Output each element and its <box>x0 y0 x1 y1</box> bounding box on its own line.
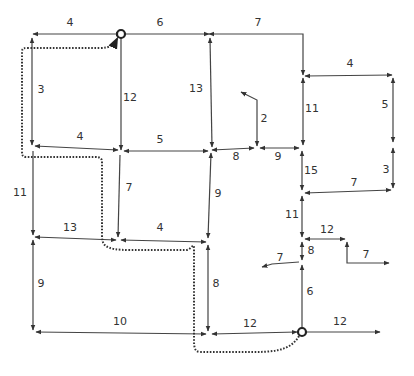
edge-e32 <box>212 332 297 334</box>
edge-weight-label: 12 <box>333 315 347 328</box>
edge-weight-label: 6 <box>307 285 314 298</box>
edge-weight-label: 9 <box>38 277 45 290</box>
edge-e11 <box>241 92 257 146</box>
edge-weight-label: 12 <box>243 317 257 330</box>
edge-weight-label: 4 <box>157 221 164 234</box>
edge-weight-label: 9 <box>275 150 282 163</box>
edge-weight-label: 7 <box>126 181 133 194</box>
edge-weight-label: 7 <box>363 248 370 261</box>
edge-weight-label: 4 <box>347 57 354 70</box>
edge-weight-label: 9 <box>215 187 222 200</box>
edge-weight-label: 10 <box>113 315 127 328</box>
edge-weight-label: 7 <box>277 251 284 264</box>
edge-e22 <box>35 237 116 240</box>
edge-weight-label: 5 <box>382 98 389 111</box>
edge-weight-label: 13 <box>189 82 203 95</box>
edge-weight-label: 11 <box>305 102 319 115</box>
edge-e19 <box>118 155 120 237</box>
edge-weight-label: 12 <box>123 91 137 104</box>
edge-weight-label: 7 <box>351 176 358 189</box>
edge-weight-label: 7 <box>255 16 262 29</box>
edge-e23 <box>121 240 206 242</box>
edge-weight-label: 8 <box>233 150 240 163</box>
edge-e31 <box>36 332 206 334</box>
edge-weight-label: 8 <box>213 277 220 290</box>
edge-weight-label: 2 <box>261 112 268 125</box>
edge-weight-label: 5 <box>157 133 164 146</box>
edge-weight-label: 11 <box>13 186 27 199</box>
edge-e17 <box>305 190 391 193</box>
edge-weight-label: 3 <box>38 83 45 96</box>
edge-weight-labels: 4673121345892114531571179111341278769810… <box>13 16 390 330</box>
edge-weight-label: 6 <box>157 16 164 29</box>
edge-e13 <box>305 75 392 76</box>
edge-e7 <box>35 146 118 150</box>
edge-e20 <box>208 153 211 238</box>
edge-weight-label: 11 <box>285 208 299 221</box>
edge-weight-label: 12 <box>320 223 334 236</box>
edge-e6 <box>210 38 212 147</box>
end-node-circle <box>298 328 306 336</box>
highlighted-route-path <box>22 39 299 352</box>
edge-weight-label: 4 <box>67 16 74 29</box>
road-network-diagram: 4673121345892114531571179111341278769810… <box>0 0 414 376</box>
edge-weight-label: 3 <box>383 163 390 176</box>
edge-e3 <box>209 34 303 75</box>
start-node-circle <box>117 30 125 38</box>
edge-weight-label: 13 <box>63 221 77 234</box>
edge-weight-label: 4 <box>77 130 84 143</box>
edge-weight-label: 8 <box>308 244 315 257</box>
edge-weight-label: 15 <box>304 164 318 177</box>
